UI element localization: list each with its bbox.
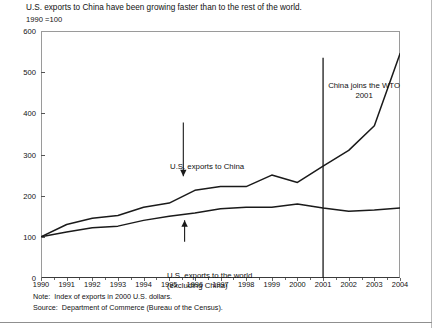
x-axis-tick-mark [323,278,324,281]
x-axis-tick-label: 1998 [238,280,254,289]
annotation-arrow-world [181,220,187,241]
annotation-wto-line2: 2001 [308,91,420,101]
chart-page: U.S. exports to China have been growing … [0,0,432,328]
x-axis-tick-label: 1992 [84,280,100,289]
y-axis-tick-label: 100 [10,232,36,241]
note-label: Note: [33,292,50,303]
x-axis-tick-label: 1993 [110,280,126,289]
x-axis-tick-label: 2004 [392,280,408,289]
x-axis-tick-label: 1991 [58,280,74,289]
annotation-china-label: U.S. exports to China [170,162,244,171]
chart-svg [41,31,400,278]
x-axis-tick-label: 1994 [135,280,151,289]
x-axis-tick-label: 2002 [340,280,356,289]
x-axis-tick-mark [92,278,93,281]
x-axis-tick-label: 2000 [289,280,305,289]
x-axis-tick-label: 2003 [366,280,382,289]
x-axis-tick-label: 2001 [315,280,331,289]
x-axis-tick-mark [67,278,68,281]
x-axis: 1990199119921993199419951996199719981999… [41,280,400,292]
y-axis-tick-mark [41,196,45,197]
y-axis-tick-label: 500 [10,68,36,77]
x-axis-minor-tick-mark [105,278,106,280]
annotation-wto-line1: China joins the WTO [308,81,420,91]
x-axis-tick-mark [221,278,222,281]
y-axis-tick-label: 300 [10,150,36,159]
x-axis-tick-mark [272,278,273,281]
x-axis-tick-label: 1996 [187,280,203,289]
y-axis-tick-mark [41,72,45,73]
y-axis-tick-label: 600 [10,27,36,36]
x-axis-tick-mark [349,278,350,281]
x-axis-tick-mark [41,278,42,281]
chart-title: U.S. exports to China have been growing … [26,3,302,13]
plot-area: U.S. exports to China U.S. exports to th… [41,31,400,278]
x-axis-tick-label: 1995 [161,280,177,289]
x-axis-minor-tick-mark [233,278,234,280]
x-axis-minor-tick-mark [387,278,388,280]
x-axis-minor-tick-mark [310,278,311,280]
x-axis-minor-tick-mark [79,278,80,280]
source-label: Source: [33,303,58,314]
x-axis-minor-tick-mark [208,278,209,280]
x-axis-minor-tick-mark [336,278,337,280]
x-axis-minor-tick-mark [54,278,55,280]
y-axis-tick-label: 400 [10,109,36,118]
y-axis-tick-mark [41,237,45,238]
y-axis-tick-label: 200 [10,191,36,200]
page-edge-bottom [0,322,432,323]
x-axis-tick-label: 1997 [212,280,228,289]
y-axis-tick-mark [41,113,45,114]
series-line-world [41,204,400,237]
x-axis-tick-mark [246,278,247,281]
source-row: Source: Department of Commerce (Bureau o… [33,303,223,314]
x-axis-tick-mark [169,278,170,281]
x-axis-minor-tick-mark [285,278,286,280]
note-row: Note: Index of exports in 2000 U.S. doll… [33,292,223,303]
x-axis-tick-mark [400,278,401,281]
x-axis-tick-mark [118,278,119,281]
x-axis-tick-label: 1999 [264,280,280,289]
x-axis-minor-tick-mark [259,278,260,280]
y-axis-tick-mark [41,155,45,156]
x-axis-minor-tick-mark [362,278,363,280]
x-axis-tick-label: 1990 [33,280,49,289]
chart-subtitle: 1990 =100 [26,15,62,24]
x-axis-tick-mark [144,278,145,281]
source-text: Department of Commerce (Bureau of the Ce… [62,303,223,312]
x-axis-tick-mark [297,278,298,281]
x-axis-minor-tick-mark [156,278,157,280]
y-axis: 0100200300400500600 [6,31,36,278]
annotation-china-series: U.S. exports to China [170,162,244,172]
annotation-wto-event: China joins the WTO 2001 [308,81,420,101]
chart-footnotes: Note: Index of exports in 2000 U.S. doll… [33,292,223,313]
x-axis-tick-mark [195,278,196,281]
x-axis-tick-mark [374,278,375,281]
x-axis-minor-tick-mark [131,278,132,280]
x-axis-minor-tick-mark [182,278,183,280]
note-text: Index of exports in 2000 U.S. dollars. [54,292,172,301]
